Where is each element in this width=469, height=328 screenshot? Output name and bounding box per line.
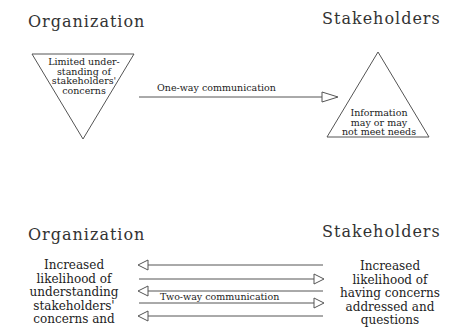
arrow-left-3 (138, 311, 323, 321)
stakeholders-outcome-text: Increased likelihood of having concerns … (330, 260, 450, 328)
org-outcome-line-5: concerns and (14, 313, 134, 327)
org-outcome-line-1: Increased (14, 259, 134, 273)
stk-outcome-line-3: having concerns (330, 287, 450, 301)
stk-outcome-line-1: Increased (330, 260, 450, 274)
stk-outcome-line-2: likelihood of (330, 274, 450, 288)
one-way-communication-label: One-way communication (156, 82, 277, 93)
top-stakeholders-heading: Stakeholders (322, 9, 441, 28)
two-way-communication-label: Two-way communication (159, 291, 280, 302)
one-way-arrow (139, 92, 338, 102)
stk-tri-line-3: not meet needs (333, 127, 425, 137)
arrow-left-1 (138, 260, 323, 270)
org-outcome-line-2: likelihood of (14, 273, 134, 287)
bottom-organization-heading: Organization (28, 225, 145, 244)
top-organization-heading: Organization (28, 12, 145, 31)
stk-outcome-line-5: questions (330, 314, 450, 328)
bottom-stakeholders-heading: Stakeholders (322, 222, 441, 241)
org-outcome-line-4: stakeholders' (14, 300, 134, 314)
organization-outcome-text: Increased likelihood of understanding st… (14, 259, 134, 327)
arrow-right-1 (139, 274, 324, 284)
org-tri-line-4: concerns (38, 86, 130, 96)
stakeholders-triangle-text: Information may or may not meet needs (333, 108, 425, 137)
organization-triangle-text: Limited under- standing of stakeholders'… (38, 57, 130, 95)
stk-outcome-line-4: addressed and (330, 301, 450, 315)
org-outcome-line-3: understanding (14, 286, 134, 300)
